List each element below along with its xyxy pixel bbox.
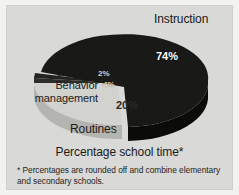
- chart-footnote: * Percentages are rounded off and combin…: [17, 165, 225, 186]
- slice-label-routines: Routines: [70, 123, 117, 136]
- slice-value-behavior-management: 4%: [103, 80, 115, 89]
- slice-value-routines: 20%: [116, 99, 138, 111]
- slice-value-social-activities: 2%: [98, 69, 110, 78]
- slice-label-behavior-management: Behavior management: [16, 79, 98, 104]
- chart-paper: Instruction Social activities Behavior m…: [6, 5, 233, 190]
- slice-label-social-activities: Social activities: [28, 53, 98, 78]
- chart-title: Percentage school time*: [6, 145, 233, 159]
- slice-value-instruction: 74%: [156, 50, 178, 62]
- slice-label-instruction: Instruction: [154, 13, 208, 26]
- plot-area: Instruction Social activities Behavior m…: [6, 5, 233, 152]
- pie-chart-figure: Instruction Social activities Behavior m…: [0, 0, 239, 195]
